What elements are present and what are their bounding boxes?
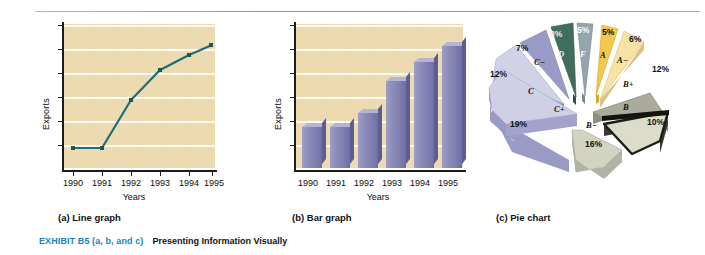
bar-graph-x-axis <box>294 170 466 172</box>
pie-label-b: B <box>623 102 629 112</box>
pie-percent-c-minus: 7% <box>516 43 528 53</box>
bar-graph-y-axis-label: Exports <box>273 98 283 130</box>
line-graph-caption: (a) Line graph <box>58 212 121 223</box>
exhibit-title: Presenting Information Visually <box>152 236 287 246</box>
pie-percent-a-minus: 6% <box>629 34 641 44</box>
line-graph-plot-area <box>64 24 215 168</box>
pie-slice-b-minus <box>572 130 622 179</box>
exhibit-id: EXHIBIT B5 (a, b, and c) <box>39 236 143 246</box>
pie-label-a-minus: A− <box>617 55 628 65</box>
pie-label-b-minus: B− <box>586 120 597 130</box>
line-graph-panel: Exports <box>0 0 230 230</box>
line-graph-xtick-1995: 1995 <box>194 178 234 188</box>
pie-label-f: F <box>580 49 586 59</box>
pie-percent-a: 5% <box>602 27 614 37</box>
bar-graph-xtick-1995: 1995 <box>428 178 468 188</box>
pie-slice-f <box>577 23 593 104</box>
pie-percent-b-minus: 16% <box>585 139 602 149</box>
line-graph-series <box>64 24 215 168</box>
pie-chart-panel: 7% 12% 19% 8% 5% 5% 6% 12% 10% 16% C− C … <box>472 0 705 230</box>
bar-graph-x-axis-title: Years <box>348 192 408 202</box>
pie-percent-b-plus: 12% <box>652 64 669 74</box>
pie-label-a: A <box>600 50 606 60</box>
line-graph-y-axis-label: Exports <box>41 98 51 130</box>
pie-chart-graphic: 7% 12% 19% 8% 5% 5% 6% 12% 10% 16% C− C … <box>472 12 705 182</box>
line-graph-y-axis <box>62 22 64 172</box>
pie-label-c: C <box>528 86 534 96</box>
pie-label-c-minus: C− <box>534 57 545 67</box>
pie-label-b-plus: B+ <box>623 79 634 89</box>
pie-percent-f: 5% <box>577 25 589 35</box>
bar-graph-panel: Exports <box>232 0 472 230</box>
exhibit-figure: Exports <box>0 0 705 255</box>
pie-label-c-plus: C+ <box>554 104 565 114</box>
pie-percent-b: 10% <box>647 117 664 127</box>
pie-percent-c-plus: 19% <box>510 119 527 129</box>
exhibit-caption: EXHIBIT B5 (a, b, and c)Presenting Infor… <box>39 236 287 246</box>
pie-percent-d: 8% <box>550 29 562 39</box>
line-graph-x-axis <box>62 170 217 172</box>
pie-percent-c: 12% <box>490 69 507 79</box>
bar-graph-y-axis <box>294 22 296 172</box>
bar-graph-plot-area <box>296 24 463 168</box>
pie-chart-caption: (c) Pie chart <box>496 212 550 223</box>
bar-graph-caption: (b) Bar graph <box>292 212 352 223</box>
pie-label-d: D <box>558 49 564 59</box>
line-graph-x-axis-title: Years <box>104 192 164 202</box>
